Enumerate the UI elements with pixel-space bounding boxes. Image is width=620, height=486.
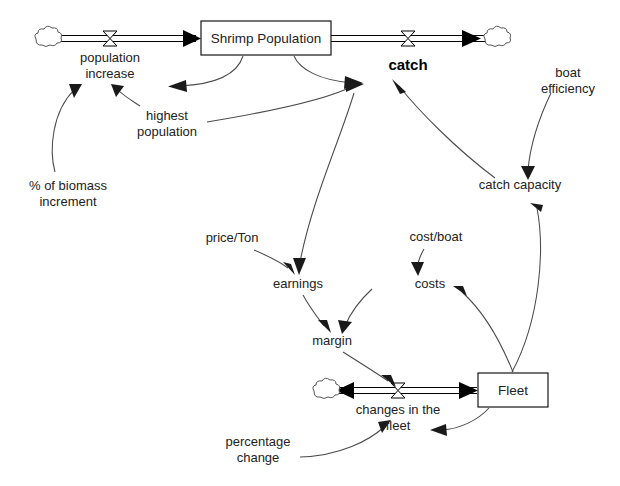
stock-label-shrimp-population: Shrimp Population bbox=[211, 31, 321, 46]
flow-label-line1: population bbox=[80, 50, 140, 65]
variable-label-line1: price/Ton bbox=[206, 230, 259, 245]
link-arrowhead bbox=[111, 84, 124, 97]
variable-price-per-ton[interactable]: price/Ton bbox=[206, 230, 259, 245]
variable-costs[interactable]: costs bbox=[415, 276, 446, 291]
link-arrowhead bbox=[411, 262, 424, 276]
link-arrowhead bbox=[392, 79, 406, 94]
flow-arrowhead-to-fleet bbox=[459, 382, 478, 399]
link-boat-efficiency-to-catch-capacity bbox=[521, 93, 551, 180]
stock-flow-diagram: Shrimp Population Fleet population incre… bbox=[0, 0, 620, 486]
valve-changes-in-the-fleet[interactable] bbox=[391, 383, 405, 398]
diagram-canvas: Shrimp Population Fleet population incre… bbox=[0, 0, 620, 486]
link-earnings-to-margin bbox=[303, 295, 331, 333]
variable-label-line1: cost/boat bbox=[410, 229, 463, 244]
variable-label-line2: population bbox=[137, 124, 197, 139]
stock-shrimp-population[interactable]: Shrimp Population bbox=[201, 21, 331, 55]
variable-label-line1: costs bbox=[415, 276, 446, 291]
link-highest-population-to-population-increase bbox=[111, 84, 140, 106]
flow-pipe-changes-in-the-fleet bbox=[333, 382, 478, 399]
variable-label-line1: highest bbox=[146, 108, 188, 123]
variable-label-line2: change bbox=[237, 450, 280, 465]
link-fleet-to-catch-capacity bbox=[512, 203, 543, 372]
flow-label-line1: catch bbox=[388, 56, 427, 73]
link-arrowhead bbox=[430, 424, 447, 436]
flow-arrowhead-catch bbox=[462, 30, 481, 47]
variable-cost-per-boat[interactable]: cost/boat bbox=[410, 229, 463, 244]
link-arrowhead bbox=[168, 80, 187, 92]
link-percentage-change-to-changes-in-fleet bbox=[300, 420, 391, 457]
sink-cloud-fleet bbox=[313, 378, 340, 398]
variable-pct-biomass-increment[interactable]: % of biomass increment bbox=[29, 178, 108, 209]
flow-label-line1: changes in the bbox=[356, 402, 441, 417]
stock-label-fleet: Fleet bbox=[498, 383, 528, 398]
link-price-to-earnings bbox=[254, 250, 295, 275]
variable-label-line2: increment bbox=[39, 194, 96, 209]
valve-catch[interactable] bbox=[401, 31, 415, 46]
variable-earnings[interactable]: earnings bbox=[273, 276, 323, 291]
variable-label-line1: % of biomass bbox=[29, 178, 108, 193]
link-costs-to-margin bbox=[338, 289, 372, 334]
source-cloud-population bbox=[35, 26, 62, 46]
link-cost-per-boat-to-costs bbox=[411, 249, 424, 276]
link-shrimp-to-population-increase bbox=[168, 56, 243, 92]
sink-cloud-catch bbox=[484, 26, 511, 46]
link-arrowhead bbox=[338, 320, 352, 334]
variable-label-line2: efficiency bbox=[541, 81, 595, 96]
flow-label-population-increase: population increase bbox=[80, 50, 140, 81]
variable-catch-capacity[interactable]: catch capacity bbox=[479, 177, 562, 192]
flow-label-changes-in-the-fleet: changes in the fleet bbox=[356, 402, 441, 433]
link-highest-population-to-catch bbox=[207, 79, 364, 122]
variable-label-line1: percentage bbox=[225, 434, 290, 449]
link-arrowhead bbox=[318, 320, 331, 333]
flow-arrowhead-population-increase bbox=[183, 30, 201, 47]
link-catch-to-earnings bbox=[293, 93, 354, 275]
link-margin-to-changes-in-fleet bbox=[343, 352, 396, 387]
variable-percentage-change[interactable]: percentage change bbox=[225, 434, 290, 465]
flow-label-catch: catch bbox=[388, 56, 427, 73]
link-catch-capacity-to-catch bbox=[392, 79, 495, 178]
variable-label-line1: margin bbox=[312, 333, 352, 348]
variable-label-line1: boat bbox=[555, 65, 581, 80]
link-arrowhead bbox=[69, 84, 82, 98]
link-pct-biomass-to-population-increase bbox=[52, 84, 82, 172]
variable-label-line1: catch capacity bbox=[479, 177, 562, 192]
link-arrowhead bbox=[283, 262, 295, 275]
variable-boat-efficiency[interactable]: boat efficiency bbox=[541, 65, 595, 96]
link-arrowhead bbox=[293, 258, 306, 275]
link-fleet-to-costs bbox=[453, 286, 513, 372]
variable-margin[interactable]: margin bbox=[312, 333, 352, 348]
flow-pipe-population-increase bbox=[56, 30, 201, 47]
valve-population-increase[interactable] bbox=[103, 31, 117, 46]
flow-label-line2: increase bbox=[85, 66, 134, 81]
link-arrowhead bbox=[530, 203, 543, 212]
variable-label-line1: earnings bbox=[273, 276, 323, 291]
stock-fleet[interactable]: Fleet bbox=[478, 373, 548, 407]
variable-highest-population[interactable]: highest population bbox=[137, 108, 197, 139]
flow-label-line2: fleet bbox=[386, 418, 411, 433]
